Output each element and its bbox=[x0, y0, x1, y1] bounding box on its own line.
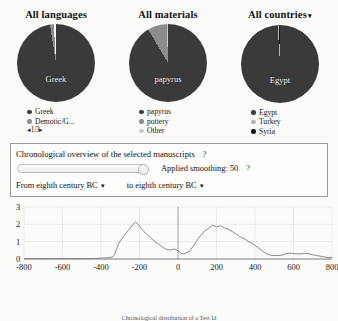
legend-swatch-icon bbox=[139, 129, 144, 134]
chronological-overview-widget: All languages Greek Greek Demotic/G... ◂… bbox=[0, 0, 338, 321]
facet-title-languages-label: All languages bbox=[25, 9, 87, 20]
legend-item[interactable]: Syria bbox=[251, 127, 325, 137]
legend-label: Greek bbox=[35, 107, 54, 117]
pie-slices-countries bbox=[241, 25, 319, 103]
facet-title-materials-label: All materials bbox=[138, 9, 197, 20]
controls-title: Chronological overview of the selected m… bbox=[16, 149, 195, 159]
smoothing-label-text: Applied smoothing: bbox=[161, 164, 228, 173]
svg-text:200: 200 bbox=[210, 262, 223, 272]
svg-text:-600: -600 bbox=[55, 262, 71, 272]
svg-text:800: 800 bbox=[326, 262, 338, 272]
legend-swatch-icon bbox=[27, 119, 32, 124]
pie-chart-countries[interactable]: Egypt bbox=[241, 25, 319, 103]
smoothing-row: Applied smoothing: 50 ? bbox=[16, 161, 322, 176]
legend-swatch-icon bbox=[139, 119, 144, 124]
legend-materials: papyrus pottery Other bbox=[123, 107, 213, 136]
svg-text:-800: -800 bbox=[16, 262, 32, 272]
pie-chart-materials[interactable]: papyrus bbox=[129, 24, 207, 102]
legend-swatch-icon bbox=[251, 120, 256, 125]
to-century-dropdown[interactable]: to eighth century BC▾ bbox=[127, 181, 204, 190]
svg-text:3: 3 bbox=[16, 203, 20, 212]
smoothing-slider-handle[interactable] bbox=[138, 164, 149, 175]
legend-item[interactable]: Other bbox=[139, 126, 213, 136]
figure-caption: Chronological distribution of a Test Id bbox=[0, 314, 338, 321]
legend-label: papyrus bbox=[147, 107, 171, 117]
legend-item[interactable]: Greek bbox=[27, 107, 101, 117]
chronological-line-chart[interactable]: 0123-800-600-400-2000200400600800 bbox=[0, 203, 338, 279]
legend-item[interactable]: pottery bbox=[139, 117, 213, 127]
legend-item[interactable]: Egypt bbox=[251, 108, 325, 118]
legend-countries: Egypt Turkey Syria bbox=[235, 108, 325, 137]
svg-text:400: 400 bbox=[249, 262, 262, 272]
date-range-row: From eighth century BC▾ to eighth centur… bbox=[16, 178, 322, 192]
facet-panel-languages: All languages Greek Greek Demotic/G... ◂… bbox=[0, 9, 112, 136]
legend-languages: Greek Demotic/G... ◂1/3▸ bbox=[11, 107, 101, 136]
legend-label: pottery bbox=[147, 117, 169, 127]
smoothing-value: 50 bbox=[230, 164, 238, 173]
facet-title-languages[interactable]: All languages bbox=[25, 9, 87, 21]
legend-item[interactable]: papyrus bbox=[139, 107, 213, 117]
legend-label: Turkey bbox=[259, 117, 281, 127]
pie-slices-languages bbox=[17, 24, 95, 102]
pie-slices-materials bbox=[129, 24, 207, 102]
legend-label: Syria bbox=[259, 127, 275, 137]
chevron-down-icon: ▾ bbox=[101, 182, 105, 189]
svg-text:-400: -400 bbox=[93, 262, 109, 272]
svg-text:600: 600 bbox=[287, 262, 300, 272]
help-icon[interactable]: ? bbox=[246, 164, 250, 173]
svg-text:0: 0 bbox=[176, 262, 180, 272]
legend-swatch-icon bbox=[251, 129, 256, 134]
facet-title-countries[interactable]: All countries▾ bbox=[248, 9, 312, 22]
facet-title-materials[interactable]: All materials bbox=[138, 9, 197, 21]
from-century-label: From eighth century BC bbox=[16, 181, 98, 190]
legend-swatch-icon bbox=[27, 110, 32, 115]
chevron-down-icon: ▾ bbox=[200, 182, 204, 189]
legend-label: Demotic/G... bbox=[35, 117, 74, 127]
facet-title-countries-label: All countries bbox=[248, 9, 307, 20]
legend-item[interactable]: Demotic/G... bbox=[27, 117, 101, 127]
to-century-label: to eighth century BC bbox=[127, 181, 197, 190]
help-icon[interactable]: ? bbox=[203, 150, 207, 159]
svg-text:1: 1 bbox=[16, 237, 20, 247]
from-century-dropdown[interactable]: From eighth century BC▾ bbox=[16, 181, 105, 190]
svg-text:2: 2 bbox=[16, 219, 20, 229]
pie-chart-languages[interactable]: Greek bbox=[17, 24, 95, 102]
legend-label: Egypt bbox=[259, 108, 277, 118]
smoothing-label: Applied smoothing: 50 bbox=[161, 164, 238, 173]
svg-text:-200: -200 bbox=[132, 262, 148, 272]
legend-swatch-icon bbox=[139, 110, 144, 115]
line-chart-svg: 0123-800-600-400-2000200400600800 bbox=[0, 203, 338, 279]
facet-pies-row: All languages Greek Greek Demotic/G... ◂… bbox=[0, 0, 338, 136]
smoothing-slider[interactable] bbox=[17, 164, 147, 173]
legend-pager-languages[interactable]: ◂1/3▸ bbox=[27, 126, 101, 136]
facet-panel-materials: All materials papyrus papyrus pottery Ot… bbox=[112, 9, 224, 136]
legend-item[interactable]: Turkey bbox=[251, 117, 325, 127]
chronological-controls-panel: Chronological overview of the selected m… bbox=[10, 143, 328, 197]
legend-swatch-icon bbox=[251, 110, 256, 115]
controls-title-row: Chronological overview of the selected m… bbox=[16, 147, 322, 161]
chevron-down-icon[interactable]: ▾ bbox=[308, 12, 312, 20]
facet-panel-countries: All countries▾ Egypt Egypt Turkey Syria bbox=[224, 9, 336, 136]
legend-label: Other bbox=[147, 126, 164, 136]
